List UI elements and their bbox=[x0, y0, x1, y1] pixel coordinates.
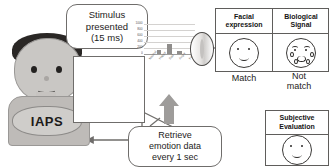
distressed-face-icon bbox=[286, 38, 316, 68]
subjective-header-line2: Evaluation bbox=[279, 123, 314, 131]
facial-expression-column: Facial expression bbox=[216, 9, 272, 71]
chart-gridline bbox=[144, 30, 195, 31]
facial-expression-header: Facial expression bbox=[216, 9, 272, 34]
iaps-badge: IAPS bbox=[12, 106, 82, 136]
thick-up-arrow-icon bbox=[158, 94, 180, 124]
subject-nose bbox=[44, 76, 49, 81]
chart-x-tick-label: Sad bbox=[168, 54, 175, 61]
facial-header-line1: Facial bbox=[234, 13, 254, 21]
chart-gridline bbox=[144, 42, 195, 43]
subjective-evaluation-panel: Subjective Evaluation bbox=[265, 110, 329, 166]
biological-verdict-line1: Not bbox=[292, 71, 306, 81]
biological-header-line2: Signal bbox=[290, 21, 311, 29]
camera-lens-icon bbox=[190, 32, 214, 66]
facial-header-line2: expression bbox=[226, 21, 263, 29]
happy-face-icon bbox=[229, 38, 259, 68]
subject-eye-left bbox=[31, 66, 37, 73]
stimulus-bubble-line3: (15 ms) bbox=[91, 32, 123, 44]
stimulus-bubble-line1: Stimulus bbox=[89, 9, 125, 21]
chart-y-tick: 200 bbox=[138, 46, 143, 49]
chart-y-tick: 1000 bbox=[136, 22, 143, 25]
stimulus-bubble-line2: presented bbox=[86, 21, 128, 33]
retrieve-bubble-line2: emotion data bbox=[149, 141, 201, 152]
subject-eye-right bbox=[56, 66, 62, 73]
emotion-bar-chart: 02004006008001000 NeutralHappySadAngryFe… bbox=[129, 24, 195, 62]
facial-verdict-label: Match bbox=[221, 73, 267, 83]
retrieve-bubble-line3: every 1 sec bbox=[152, 152, 198, 163]
facial-expression-body bbox=[216, 34, 272, 71]
subjective-evaluation-header: Subjective Evaluation bbox=[266, 111, 328, 135]
biological-signal-column: Biological Signal bbox=[272, 9, 329, 71]
biological-verdict-line2: match bbox=[287, 81, 312, 91]
chart-y-axis: 02004006008001000 bbox=[129, 24, 143, 55]
subjective-evaluation-body bbox=[266, 135, 328, 164]
chart-gridline bbox=[144, 36, 195, 37]
chart-gridline bbox=[144, 24, 195, 25]
chart-y-tick: 0 bbox=[141, 52, 143, 55]
biological-verdict-label: Not match bbox=[276, 71, 322, 92]
subjective-happy-face-icon bbox=[282, 135, 312, 165]
comparison-panel: Facial expression Biological Signal bbox=[215, 8, 329, 72]
biological-header-line1: Biological bbox=[284, 13, 317, 21]
subjective-header-line1: Subjective bbox=[279, 114, 314, 122]
chart-y-tick: 400 bbox=[138, 40, 143, 43]
stimulus-screen bbox=[73, 56, 145, 123]
iaps-label: IAPS bbox=[31, 114, 63, 129]
chart-y-tick: 600 bbox=[138, 34, 143, 37]
retrieve-bubble: Retrieve emotion data every 1 sec bbox=[128, 126, 222, 167]
chart-plot-area bbox=[144, 24, 195, 55]
biological-signal-body bbox=[273, 34, 329, 71]
chart-y-tick: 800 bbox=[138, 28, 143, 31]
biological-signal-header: Biological Signal bbox=[273, 9, 329, 34]
diagram-canvas: IAPS Stimulus presented (15 ms) Retrieve… bbox=[0, 0, 335, 168]
retrieve-bubble-line1: Retrieve bbox=[158, 130, 192, 141]
